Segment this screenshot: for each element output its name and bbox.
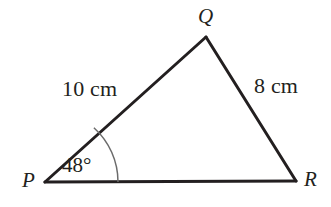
vertex-label-r: R [304,169,317,190]
vertex-label-q: Q [198,6,213,27]
triangle-figure-canvas [0,0,331,207]
vertex-label-p: P [22,170,35,191]
side-length-label-pq: 10 cm [62,78,117,100]
side-length-label-qr: 8 cm [254,75,298,97]
angle-measure-label-p: 48° [62,155,91,176]
side-pr-line [45,181,296,182]
triangle-diagram: P Q R 10 cm 8 cm 48° [0,0,331,207]
side-qr-line [206,37,296,181]
